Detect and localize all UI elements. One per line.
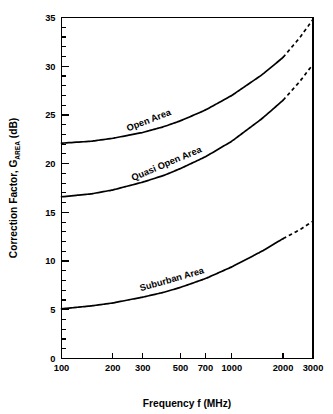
y-axis-title-main: Correction Factor, G <box>8 160 19 259</box>
y-axis-title-text: Correction Factor, GAREA (dB) <box>8 118 21 258</box>
y-tick-label: 25 <box>45 110 55 120</box>
series-line-dashed-0 <box>283 19 313 57</box>
x-tick-label: 500 <box>173 363 189 373</box>
plot-frame <box>62 18 314 359</box>
y-tick-label: 15 <box>45 208 55 218</box>
y-axis-title: Correction Factor, GAREA (dB) <box>8 118 21 258</box>
y-tick-label: 5 <box>50 305 55 315</box>
series-label-group-0: Open Area <box>125 107 173 133</box>
correction-factor-chart: 05101520253035 1002003005007001000200030… <box>0 0 333 414</box>
series-label-0: Open Area <box>125 107 173 133</box>
x-tick-label: 200 <box>105 363 121 373</box>
chart-container: 05101520253035 1002003005007001000200030… <box>0 0 333 414</box>
x-axis-title: Frequency f (MHz) <box>143 398 231 409</box>
x-tick-label: 1000 <box>221 363 242 373</box>
series-inline-labels: Open AreaQuasi Open AreaSuburban Area <box>125 107 206 293</box>
x-tick-label: 3000 <box>303 363 324 373</box>
x-tick-label: 2000 <box>273 363 294 373</box>
y-axis-title-subscript: AREA <box>14 141 21 160</box>
x-axis-major-ticks <box>62 353 314 359</box>
series-line-solid-1 <box>62 100 284 196</box>
y-tick-label: 30 <box>45 62 55 72</box>
y-tick-label: 35 <box>45 13 55 23</box>
x-tick-label: 100 <box>54 363 70 373</box>
y-axis-tick-labels: 05101520253035 <box>45 13 55 364</box>
series-line-dashed-2 <box>283 221 313 239</box>
x-axis-title-text: Frequency f (MHz) <box>143 398 231 409</box>
x-tick-label: 700 <box>198 363 214 373</box>
series-line-dashed-1 <box>283 64 313 100</box>
y-axis-title-units: (dB) <box>8 118 19 141</box>
y-tick-label: 10 <box>45 256 55 266</box>
x-axis-tick-labels: 100200300500700100020003000 <box>54 363 324 373</box>
y-tick-label: 20 <box>45 159 55 169</box>
x-tick-label: 300 <box>135 363 151 373</box>
series-line-solid-0 <box>62 57 284 143</box>
data-series-group <box>62 19 314 308</box>
